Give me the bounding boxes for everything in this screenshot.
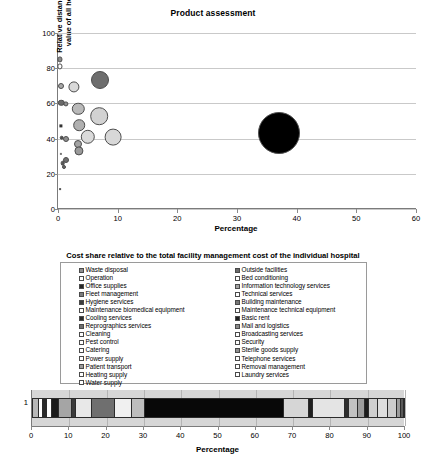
legend-swatch-icon [235, 268, 240, 273]
legend-item: Basic rent [235, 314, 369, 322]
legend-swatch-icon [235, 308, 240, 313]
bubble-data-point [90, 107, 108, 125]
bubble-data-point [63, 101, 68, 106]
x-tick-label: 50 [203, 431, 233, 440]
legend-swatch-icon [79, 292, 84, 297]
legend-item-label: Building maintenance [242, 298, 302, 306]
legend-swatch-icon [79, 364, 84, 369]
x-tick-mark [367, 426, 368, 430]
stacked-bar-segment [76, 399, 92, 417]
x-tick-mark [118, 209, 119, 213]
legend-item: Maintenance biomedical equipment [79, 306, 213, 314]
legend-box: Waste disposalOperationOffice suppliesFl… [60, 262, 367, 384]
legend-item-label: Catering [86, 346, 110, 354]
legend-item-label: Fleet management [86, 290, 139, 298]
stacked-bar-segment [369, 399, 378, 417]
stacked-bar-segment [59, 399, 72, 417]
legend-swatch-icon [79, 316, 84, 321]
bubble-data-point [59, 188, 61, 190]
x-tick-label: 60 [240, 431, 270, 440]
legend-swatch-icon [79, 308, 84, 313]
x-tick-label: 70 [277, 431, 307, 440]
x-tick-label: 20 [91, 431, 121, 440]
bubble-data-point [68, 81, 79, 92]
legend-swatch-icon [79, 356, 84, 361]
legend-item: Cleaning [79, 330, 213, 338]
bubble-chart-x-axis-label: Percentage [57, 224, 415, 233]
legend-swatch-icon [235, 292, 240, 297]
legend-item: Catering [79, 346, 213, 354]
x-tick-mark [404, 426, 405, 430]
legend-item-label: Office supplies [86, 282, 127, 290]
legend-item: Reprographics services [79, 322, 213, 330]
legend-swatch-icon [235, 364, 240, 369]
x-tick-mark [356, 209, 357, 213]
stacked-bar-segment [92, 399, 115, 417]
legend-swatch-icon [79, 340, 84, 345]
y-tick-mark [54, 174, 58, 175]
bubble-data-point [258, 112, 300, 154]
legend-title: Cost share relative to the total facilit… [0, 251, 426, 260]
legend-swatch-icon [79, 276, 84, 281]
x-tick-label: 10 [103, 214, 133, 223]
legend-item-label: Reprographics services [86, 322, 152, 330]
legend-swatch-icon [79, 300, 84, 305]
legend-item: Mail and logistics [235, 322, 369, 330]
legend-item-label: Sterile goods supply [242, 346, 299, 354]
legend-item: Water supply [79, 379, 213, 387]
stacked-bar-segment [313, 399, 345, 417]
stacked-bar-segment [145, 399, 284, 417]
x-tick-label: 30 [128, 431, 158, 440]
x-tick-label: 0 [43, 214, 73, 223]
x-tick-label: 0 [16, 431, 46, 440]
x-tick-mark [218, 426, 219, 430]
x-tick-label: 10 [53, 431, 83, 440]
y-tick-label: 0 [25, 205, 55, 214]
stacked-bar-segment [349, 399, 358, 417]
bubble-chart-y-axis-label: Relative distance to average value of al… [55, 0, 71, 63]
legend-column-left: Waste disposalOperationOffice suppliesFl… [79, 266, 213, 387]
legend-item: Bed conditioning [235, 274, 369, 282]
bubble-data-point [81, 130, 95, 144]
legend-item-label: Water supply [86, 379, 122, 387]
y-axis-label-line2: value of all hospitals (%) [64, 0, 73, 63]
stacked-bar-series [32, 398, 405, 418]
x-tick-label: 100 [389, 431, 419, 440]
y-tick-label: 100 [25, 29, 55, 38]
bubble-data-point [63, 136, 69, 142]
x-tick-mark [255, 426, 256, 430]
x-tick-mark [180, 426, 181, 430]
gridline [58, 68, 416, 69]
x-tick-mark [329, 426, 330, 430]
gridline [405, 390, 406, 426]
x-tick-mark [177, 209, 178, 213]
stacked-bar-segment [358, 399, 365, 417]
x-tick-mark [106, 426, 107, 430]
stacked-bar-plot-area [31, 390, 404, 426]
gridline [58, 174, 416, 175]
bubble-data-point [105, 129, 122, 146]
legend-swatch-icon [235, 332, 240, 337]
legend-item: Security [235, 338, 369, 346]
x-tick-label: 60 [401, 214, 426, 223]
legend-item-label: Waste disposal [86, 266, 128, 274]
x-tick-mark [31, 426, 32, 430]
legend-item: Laundry services [235, 371, 369, 379]
legend-swatch-icon [235, 340, 240, 345]
legend-swatch-icon [79, 284, 84, 289]
legend-item-label: Maintenance technical equipment [242, 306, 336, 314]
legend-item-label: Heating supply [86, 371, 128, 379]
gridline [58, 103, 416, 104]
legend-item: Removal management [235, 363, 369, 371]
legend-item: Operation [79, 274, 213, 282]
stacked-bar-category-label: 1 [12, 398, 28, 407]
bubble-data-point [60, 152, 62, 154]
legend-swatch-icon [235, 300, 240, 305]
y-axis-label-line1: Relative distance to average [55, 0, 64, 63]
legend-item: Cooling services [79, 314, 213, 322]
x-tick-label: 90 [352, 431, 382, 440]
legend-item-label: Maintenance biomedical equipment [86, 306, 185, 314]
legend-item-label: Telephone services [242, 355, 296, 363]
stacked-bar-segment [115, 399, 132, 417]
x-tick-mark [143, 426, 144, 430]
